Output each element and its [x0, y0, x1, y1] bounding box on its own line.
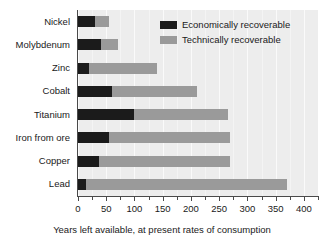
x-tick-minor	[92, 197, 93, 200]
gridline	[92, 10, 93, 196]
x-tick-minor	[233, 197, 234, 200]
x-tick-major	[191, 197, 192, 201]
category-label: Nickel	[0, 17, 70, 27]
bar-segment-economically-recoverable	[78, 63, 89, 74]
bar-row	[78, 109, 318, 120]
x-tick-label: 0	[63, 203, 93, 214]
legend-item-label: Economically recoverable	[182, 18, 290, 31]
gridline	[134, 10, 135, 196]
bar-row	[78, 86, 318, 97]
bar-row	[78, 156, 318, 167]
x-tick-label: 350	[261, 203, 291, 214]
category-label: Cobalt	[0, 86, 70, 96]
x-tick-minor	[318, 197, 319, 200]
x-tick-major	[304, 197, 305, 201]
legend-item-label: Technically recoverable	[182, 33, 281, 46]
x-tick-label: 300	[232, 203, 262, 214]
bar-segment-technically-recoverable	[78, 156, 230, 167]
bar-row	[78, 132, 318, 143]
bar-segment-economically-recoverable	[78, 39, 101, 50]
x-tick-minor	[205, 197, 206, 200]
bar-segment-technically-recoverable	[78, 179, 287, 190]
bar-row	[78, 179, 318, 190]
bar-segment-economically-recoverable	[78, 179, 86, 190]
x-tick-major	[78, 197, 79, 201]
legend-swatch-icon	[160, 21, 177, 29]
x-tick-label: 400	[289, 203, 319, 214]
gridline	[304, 10, 305, 196]
bar-segment-economically-recoverable	[78, 132, 109, 143]
gridline	[120, 10, 121, 196]
x-tick-label: 150	[148, 203, 178, 214]
x-tick-major	[106, 197, 107, 201]
bar-segment-economically-recoverable	[78, 109, 134, 120]
gridline	[106, 10, 107, 196]
x-tick-label: 200	[176, 203, 206, 214]
category-axis-labels: NickelMolybdenumZincCobaltTitaniumIron f…	[0, 10, 74, 196]
bar-row	[78, 63, 318, 74]
category-label: Copper	[0, 156, 70, 166]
category-label: Molybdenum	[0, 40, 70, 50]
gridline	[149, 10, 150, 196]
x-tick-major	[276, 197, 277, 201]
x-tick-label: 50	[91, 203, 121, 214]
bar-chart: NickelMolybdenumZincCobaltTitaniumIron f…	[0, 0, 324, 243]
category-label: Iron from ore	[0, 133, 70, 143]
category-label: Zinc	[0, 63, 70, 73]
category-label: Titanium	[0, 110, 70, 120]
category-label: Lead	[0, 179, 70, 189]
x-tick-label: 100	[119, 203, 149, 214]
x-axis-line	[77, 196, 319, 197]
x-axis-title: Years left available, at present rates o…	[0, 224, 324, 235]
x-tick-major	[163, 197, 164, 201]
bar-segment-economically-recoverable	[78, 156, 99, 167]
x-tick-major	[134, 197, 135, 201]
x-tick-minor	[120, 197, 121, 200]
x-tick-minor	[262, 197, 263, 200]
bar-segment-technically-recoverable	[78, 63, 157, 74]
x-tick-minor	[177, 197, 178, 200]
gridline	[78, 10, 79, 196]
y-axis-line	[77, 10, 78, 196]
x-tick-label: 250	[204, 203, 234, 214]
legend-swatch-icon	[160, 36, 177, 44]
x-tick-minor	[290, 197, 291, 200]
bar-segment-economically-recoverable	[78, 16, 95, 27]
x-tick-major	[247, 197, 248, 201]
x-tick-minor	[149, 197, 150, 200]
x-tick-major	[219, 197, 220, 201]
bar-segment-economically-recoverable	[78, 86, 112, 97]
gridline	[290, 10, 291, 196]
